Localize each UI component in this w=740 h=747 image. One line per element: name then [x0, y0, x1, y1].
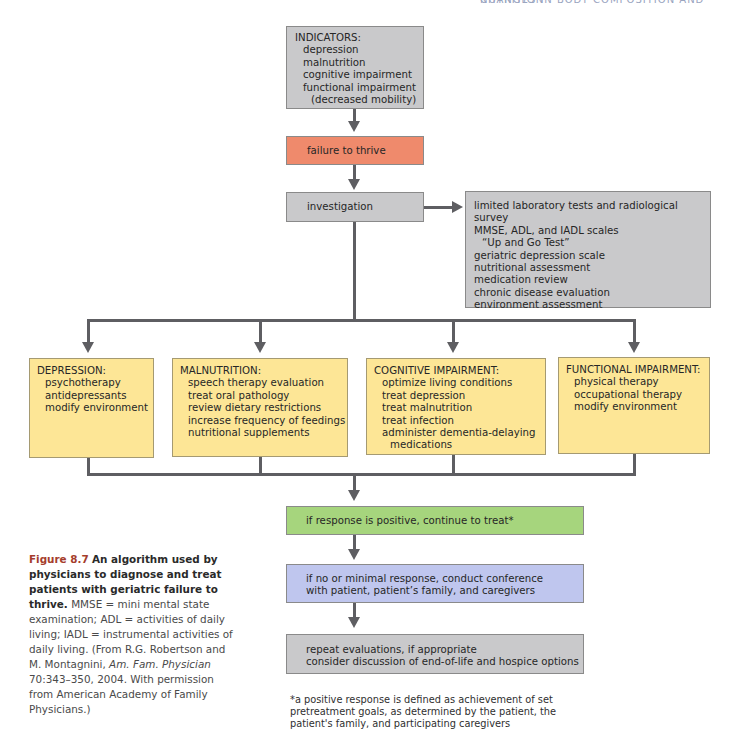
treatment-item: psychotherapy	[37, 377, 153, 389]
indicator-item: functional impairment	[295, 82, 423, 94]
caption-citation: 70:343–350, 2004. With permission from A…	[29, 673, 214, 715]
indicator-subitem: (decreased mobility)	[295, 94, 423, 106]
connector	[353, 222, 356, 320]
malnutrition-box: MALNUTRITION: speech therapy evaluation …	[172, 358, 348, 457]
treatment-item: speech therapy evaluation	[180, 377, 347, 389]
connector	[353, 603, 356, 618]
investigation-details-box: limited laboratory tests and radiologica…	[465, 191, 711, 308]
malnutrition-title: MALNUTRITION:	[180, 365, 347, 377]
treatment-item: physical therapy	[566, 376, 709, 388]
arrow-down-icon	[348, 490, 360, 501]
failure-to-thrive-box: failure to thrive	[286, 136, 424, 165]
treatment-item: treat infection	[374, 415, 545, 427]
detail-item: environment assessment	[474, 299, 710, 311]
treatment-item: nutritional supplements	[180, 427, 347, 439]
functional-title: FUNCTIONAL IMPAIRMENT:	[566, 364, 709, 376]
indicators-box: INDICATORS: depression malnutrition cogn…	[286, 26, 424, 109]
footnote-line: pretreatment goals, as determined by the…	[290, 706, 590, 718]
detail-item: chronic disease evaluation	[474, 287, 710, 299]
figure-number: Figure 8.7	[29, 553, 89, 565]
cognitive-title: COGNITIVE IMPAIRMENT:	[374, 365, 545, 377]
connector	[452, 455, 455, 475]
connector	[87, 319, 636, 322]
cognitive-impairment-box: COGNITIVE IMPAIRMENT: optimize living co…	[366, 358, 546, 455]
treatment-item: review dietary restrictions	[180, 402, 347, 414]
repeat-line: consider discussion of end-of-life and h…	[306, 656, 583, 668]
treatment-item: modify environment	[37, 402, 153, 414]
arrow-down-icon	[447, 342, 459, 353]
repeat-line: repeat evaluations, if appropriate	[306, 644, 583, 656]
footnote-line: *a positive response is defined as achie…	[290, 694, 590, 706]
running-head: CHANGES IN BODY COMPOSITION AND NUTRITIO…	[480, 0, 740, 8]
treatment-item: treat depression	[374, 390, 545, 402]
connector	[353, 165, 356, 180]
positive-response-box: if response is positive, continue to tre…	[286, 506, 584, 535]
detail-item: geriatric depression scale	[474, 250, 710, 262]
depression-box: DEPRESSION: psychotherapy antidepressant…	[29, 358, 154, 458]
positive-label: if response is positive, continue to tre…	[306, 515, 514, 526]
connector	[633, 454, 636, 475]
indicators-title: INDICATORS:	[295, 32, 423, 44]
failure-label: failure to thrive	[307, 145, 386, 156]
functional-impairment-box: FUNCTIONAL IMPAIRMENT: physical therapy …	[558, 357, 710, 454]
arrow-down-icon	[348, 179, 360, 190]
connector	[259, 319, 262, 343]
detail-item: nutritional assessment	[474, 262, 710, 274]
treatment-item-continuation: medications	[374, 439, 545, 451]
footnote-line: patient's family, and participating care…	[290, 718, 590, 730]
minimal-line: if no or minimal response, conduct confe…	[306, 573, 583, 585]
treatment-item: increase frequency of feedings	[180, 415, 347, 427]
treatment-item: occupational therapy	[566, 389, 709, 401]
indicator-item: malnutrition	[295, 57, 423, 69]
repeat-evaluations-box: repeat evaluations, if appropriate consi…	[286, 634, 584, 674]
arrow-right-icon	[452, 201, 463, 213]
treatment-item: antidepressants	[37, 390, 153, 402]
footnote: *a positive response is defined as achie…	[290, 694, 590, 729]
connector	[424, 206, 454, 209]
indicator-item: cognitive impairment	[295, 69, 423, 81]
investigation-label: investigation	[307, 201, 373, 212]
connector	[87, 473, 636, 476]
connector	[87, 319, 90, 343]
arrow-down-icon	[628, 342, 640, 353]
arrow-down-icon	[82, 342, 94, 353]
minimal-line: with patient, patient’s family, and care…	[306, 585, 583, 597]
treatment-item: modify environment	[566, 401, 709, 413]
detail-item: medication review	[474, 274, 710, 286]
indicator-item: depression	[295, 44, 423, 56]
journal-name: Am. Fam. Physician	[109, 658, 211, 670]
depression-title: DEPRESSION:	[37, 365, 153, 377]
treatment-item: optimize living conditions	[374, 377, 545, 389]
connector	[353, 535, 356, 550]
arrow-down-icon	[254, 342, 266, 353]
figure-caption: Figure 8.7 An algorithm used by physicia…	[29, 552, 239, 717]
detail-item: “Up and Go Test”	[474, 237, 710, 249]
minimal-response-box: if no or minimal response, conduct confe…	[286, 564, 584, 603]
detail-item: limited laboratory tests and radiologica…	[474, 200, 710, 225]
arrow-down-icon	[348, 549, 360, 560]
arrow-down-icon	[348, 121, 360, 132]
arrow-down-icon	[348, 617, 360, 628]
investigation-box: investigation	[286, 192, 424, 222]
treatment-item: administer dementia-delaying	[374, 427, 545, 439]
connector	[452, 319, 455, 343]
treatment-item: treat oral pathology	[180, 390, 347, 402]
treatment-item: treat malnutrition	[374, 402, 545, 414]
detail-item: MMSE, ADL, and IADL scales	[474, 225, 710, 237]
connector	[633, 319, 636, 343]
